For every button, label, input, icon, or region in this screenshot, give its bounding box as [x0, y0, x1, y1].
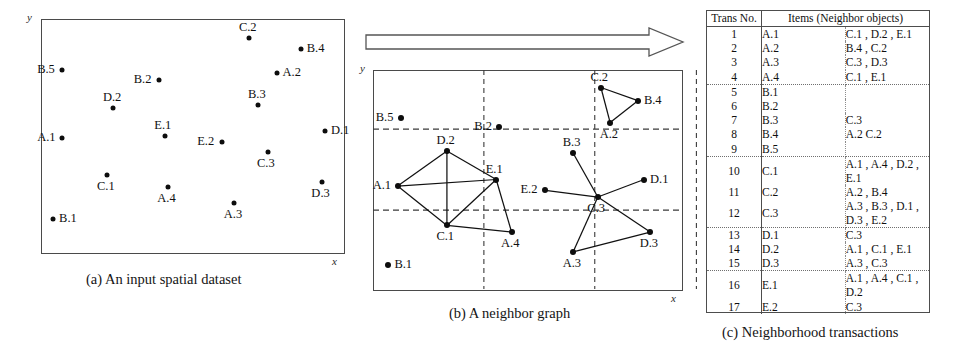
panel-b-caption: (b) A neighbor graph — [449, 305, 570, 322]
cell-neighbor-items: A.2 , B.4 — [845, 185, 929, 199]
cell-trans-no: 12 — [707, 199, 762, 228]
data-point-a-1 — [60, 135, 65, 140]
cell-neighbor-items: A.2 C.2 — [845, 127, 929, 141]
cell-object: A.2 — [762, 41, 846, 55]
cell-neighbor-items: A.3 , C.3 — [845, 256, 929, 271]
cell-object: C.2 — [762, 185, 846, 199]
cell-trans-no: 14 — [707, 242, 762, 256]
data-point-e-1 — [493, 177, 499, 183]
point-label-b-5: B.5 — [37, 63, 55, 76]
cell-object: D.1 — [762, 227, 846, 242]
point-label-d-3: D.3 — [640, 237, 658, 250]
table-row: 12C.3A.3 , B.3 , D.1 , D.3 , E.2 — [707, 199, 929, 228]
point-label-b-2: B.2 — [474, 120, 492, 133]
cell-trans-no: 6 — [707, 99, 762, 113]
cell-trans-no: 3 — [707, 55, 762, 69]
table-row: 15D.3A.3 , C.3 — [707, 256, 929, 271]
cell-object: C.3 — [762, 199, 846, 228]
point-label-d-1: D.1 — [650, 173, 668, 186]
data-point-b-1 — [385, 262, 391, 268]
cell-object: B.5 — [762, 142, 846, 157]
cell-object: A.4 — [762, 70, 846, 85]
point-label-c-2: C.2 — [590, 71, 608, 84]
point-label-e-2: E.2 — [197, 135, 214, 148]
cell-trans-no: 16 — [707, 271, 762, 300]
point-label-c-1: C.1 — [97, 180, 115, 193]
data-point-c-1 — [105, 173, 110, 178]
data-point-d-3 — [647, 229, 653, 235]
table-row: 17E.2C.3 — [707, 299, 929, 313]
cell-neighbor-items: A.3 , B.3 , D.1 , D.3 , E.2 — [845, 199, 929, 228]
cell-object: D.3 — [762, 256, 846, 271]
table-header: Trans No. Items (Neighbor objects) — [707, 11, 929, 27]
data-point-b-5 — [398, 115, 404, 121]
data-point-d-1 — [641, 177, 647, 183]
point-label-d-3: D.3 — [311, 187, 329, 200]
cell-trans-no: 2 — [707, 41, 762, 55]
data-point-a-2 — [607, 120, 613, 126]
data-point-b-2 — [156, 77, 161, 82]
cell-trans-no: 11 — [707, 185, 762, 199]
data-point-e-2 — [542, 187, 548, 193]
cell-trans-no: 5 — [707, 84, 762, 99]
transformation-arrow — [365, 27, 685, 61]
column-header-items: Items (Neighbor objects) — [762, 11, 930, 27]
data-point-c-1 — [444, 222, 450, 228]
data-point-b-4 — [298, 47, 303, 52]
table-row: 8B.4A.2 C.2 — [707, 127, 929, 141]
table-row: 9B.5 — [707, 142, 929, 157]
table-row: 3A.3C.3 , D.3 — [707, 55, 929, 69]
point-label-b-4: B.4 — [644, 94, 662, 107]
table-row: 5B.1 — [707, 84, 929, 99]
table-row: 1A.1C.1 , D.2 , E.1 — [707, 27, 929, 42]
cell-object: B.2 — [762, 99, 846, 113]
cell-neighbor-items: A.1 , A.4 , D.2 , E.1 — [845, 156, 929, 185]
cell-neighbor-items: A.1 , A.4 , C.1 , D.2 — [845, 271, 929, 300]
point-label-a-1: A.1 — [37, 131, 55, 144]
cell-neighbor-items: C.3 — [845, 227, 929, 242]
data-point-a-4 — [165, 184, 170, 189]
point-label-c-2: C.2 — [239, 21, 257, 34]
transactions-table-frame: Trans No. Items (Neighbor objects) 1A.1C… — [706, 10, 930, 313]
panel-b-y-axis-label: y — [360, 62, 365, 74]
data-point-a-3 — [232, 201, 237, 206]
point-label-b-3: B.3 — [248, 88, 266, 101]
cell-neighbor-items: C.3 — [845, 299, 929, 313]
cell-neighbor-items: B.4 , C.2 — [845, 41, 929, 55]
point-label-b-3: B.3 — [563, 136, 581, 149]
cell-trans-no: 13 — [707, 227, 762, 242]
data-point-a-1 — [395, 183, 401, 189]
data-point-e-1 — [162, 133, 167, 138]
cell-object: A.1 — [762, 27, 846, 42]
point-label-b-4: B.4 — [307, 42, 325, 55]
point-label-a-4: A.4 — [157, 192, 175, 205]
cell-neighbor-items: A.1 , C.1 , E.1 — [845, 242, 929, 256]
data-point-b-2 — [496, 124, 502, 130]
cell-trans-no: 7 — [707, 113, 762, 127]
cell-object: E.1 — [762, 271, 846, 300]
point-label-e-2: E.2 — [520, 183, 537, 196]
right-block-arrow-icon — [365, 27, 685, 57]
panel-c-caption: (c) Neighborhood transactions — [722, 324, 898, 341]
data-point-a-4 — [509, 229, 515, 235]
table-row: 11C.2A.2 , B.4 — [707, 185, 929, 199]
panel-a-caption: (a) An input spatial dataset — [86, 271, 241, 288]
cell-trans-no: 4 — [707, 70, 762, 85]
table-body: 1A.1C.1 , D.2 , E.12A.2B.4 , C.23A.3C.3 … — [707, 27, 929, 314]
point-label-b-1: B.1 — [394, 258, 412, 271]
cell-object: B.3 — [762, 113, 846, 127]
panel-a-x-axis-label: x — [332, 255, 337, 267]
table-row: 6B.2 — [707, 99, 929, 113]
data-point-c-2 — [247, 35, 252, 40]
point-label-b-1: B.1 — [59, 212, 77, 225]
cell-trans-no: 17 — [707, 299, 762, 313]
data-point-b-3 — [256, 103, 261, 108]
point-label-d-2: D.2 — [436, 134, 454, 147]
point-label-c-3: C.3 — [587, 202, 605, 215]
cell-trans-no: 10 — [707, 156, 762, 185]
transactions-table: Trans No. Items (Neighbor objects) 1A.1C… — [707, 11, 929, 314]
point-label-a-2: A.2 — [283, 66, 301, 79]
table-row: 7B.3C.3 — [707, 113, 929, 127]
column-header-trans-no: Trans No. — [707, 11, 762, 27]
cell-object: D.2 — [762, 242, 846, 256]
